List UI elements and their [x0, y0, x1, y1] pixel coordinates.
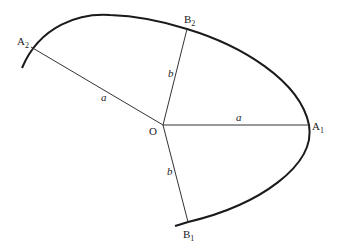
segment-O-A2: [31, 47, 163, 125]
diagram-canvas: O A1 A2 B1 B2 a a b b: [0, 0, 352, 249]
curve: [22, 15, 310, 226]
diagram-svg: O A1 A2 B1 B2 a a b b: [0, 0, 352, 249]
label-segment-O-B1: b: [167, 165, 173, 177]
label-segment-O-B2: b: [168, 67, 174, 79]
label-O: O: [149, 125, 157, 137]
label-segment-O-A2: a: [101, 91, 107, 103]
label-segment-O-A1: a: [236, 111, 242, 123]
label-A2: A2: [17, 35, 29, 50]
segment-O-B2: [163, 29, 187, 125]
label-A1: A1: [312, 120, 324, 135]
label-B2: B2: [184, 13, 195, 28]
label-B1: B1: [183, 228, 194, 243]
